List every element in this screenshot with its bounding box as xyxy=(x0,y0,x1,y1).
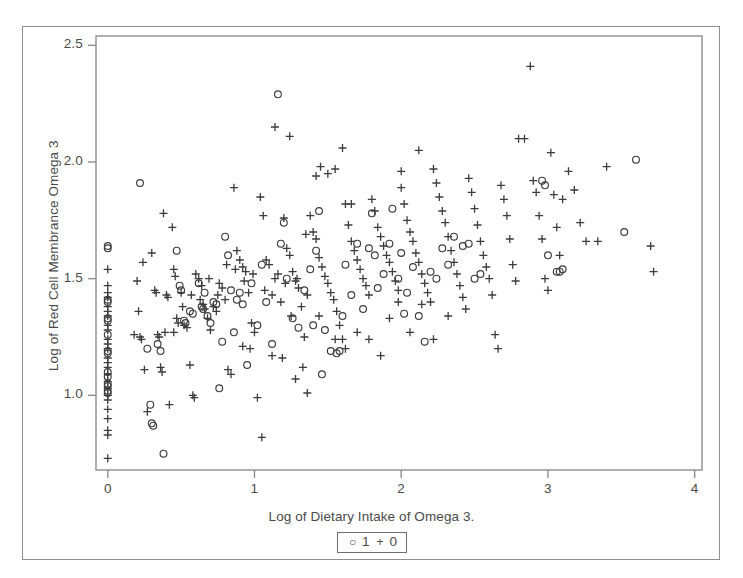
data-point-circle xyxy=(313,247,320,254)
y-tick-label: 1.0 xyxy=(0,386,83,401)
data-point-plus xyxy=(359,275,367,283)
data-point-plus xyxy=(143,408,151,416)
data-point-circle xyxy=(545,252,552,259)
data-point-plus xyxy=(400,200,408,208)
data-point-plus xyxy=(249,270,257,278)
data-point-circle xyxy=(633,156,640,163)
data-point-plus xyxy=(347,200,355,208)
data-point-plus xyxy=(406,328,414,336)
data-point-plus xyxy=(104,282,112,290)
data-point-plus xyxy=(532,188,540,196)
data-point-plus xyxy=(278,354,286,362)
x-tick-label: 3 xyxy=(528,481,568,496)
data-point-plus xyxy=(394,298,402,306)
data-point-plus xyxy=(391,277,399,285)
legend-label: 0 xyxy=(390,534,398,550)
data-point-plus xyxy=(233,247,241,255)
data-point-plus xyxy=(403,216,411,224)
data-point-plus xyxy=(553,223,561,231)
data-point-plus xyxy=(230,184,238,192)
data-point-plus xyxy=(362,282,370,290)
figure-canvas: 2.5 2.0 1.5 1.0 0 1 2 3 4 Log of Red Cel… xyxy=(0,0,743,578)
data-point-plus xyxy=(509,261,517,269)
data-point-circle xyxy=(233,296,240,303)
data-point-plus xyxy=(394,286,402,294)
data-point-plus xyxy=(429,335,437,343)
data-point-plus xyxy=(327,289,335,297)
data-point-plus xyxy=(468,188,476,196)
data-point-plus xyxy=(479,251,487,259)
data-point-circle xyxy=(415,313,422,320)
data-point-circle xyxy=(216,385,223,392)
data-point-plus xyxy=(412,249,420,257)
data-point-plus xyxy=(139,258,147,266)
data-point-circle xyxy=(477,271,484,278)
data-point-plus xyxy=(297,303,305,311)
y-axis-title: Log of Red Cell Membrance Omega 3 xyxy=(46,140,61,371)
data-point-circle xyxy=(398,250,405,257)
data-point-plus xyxy=(303,389,311,397)
data-point-plus xyxy=(312,172,320,180)
data-point-plus xyxy=(256,193,264,201)
data-point-circle xyxy=(374,285,381,292)
data-point-circle xyxy=(471,275,478,282)
data-point-circle xyxy=(380,271,387,278)
data-point-plus xyxy=(368,195,376,203)
data-point-circle xyxy=(389,205,396,212)
data-point-plus xyxy=(512,277,520,285)
plus-marker-icon: + xyxy=(375,536,386,548)
data-point-plus xyxy=(223,261,231,269)
data-point-plus xyxy=(287,312,295,320)
data-point-plus xyxy=(444,233,452,241)
data-point-plus xyxy=(187,291,195,299)
legend-label: 1 xyxy=(362,534,370,550)
data-point-plus xyxy=(385,314,393,322)
data-point-plus xyxy=(559,195,567,203)
data-point-circle xyxy=(144,345,151,352)
data-point-plus xyxy=(418,300,426,308)
data-point-circle xyxy=(339,313,346,320)
data-point-plus xyxy=(160,209,168,217)
data-point-plus xyxy=(356,265,364,273)
legend-entry-0: + 0 xyxy=(375,534,398,550)
data-points-layer xyxy=(104,62,658,462)
data-point-plus xyxy=(418,270,426,278)
data-point-plus xyxy=(603,163,611,171)
data-point-plus xyxy=(165,401,173,409)
data-point-plus xyxy=(529,177,537,185)
data-point-plus xyxy=(173,314,181,322)
data-point-plus xyxy=(318,263,326,271)
data-point-plus xyxy=(281,279,289,287)
data-point-plus xyxy=(236,256,244,264)
legend-entry-1: ○ 1 xyxy=(347,534,370,550)
data-point-plus xyxy=(421,279,429,287)
data-point-plus xyxy=(494,345,502,353)
data-point-circle xyxy=(410,264,417,271)
data-point-plus xyxy=(482,263,490,271)
data-point-plus xyxy=(506,235,514,243)
data-point-plus xyxy=(104,396,112,404)
data-point-plus xyxy=(503,212,511,220)
data-point-plus xyxy=(186,361,194,369)
data-point-plus xyxy=(444,312,452,320)
data-point-plus xyxy=(231,265,239,273)
data-point-circle xyxy=(269,341,276,348)
data-point-plus xyxy=(459,293,467,301)
data-point-plus xyxy=(261,286,269,294)
data-point-plus xyxy=(206,326,214,334)
data-point-plus xyxy=(538,235,546,243)
data-point-circle xyxy=(360,306,367,313)
data-point-circle xyxy=(433,275,440,282)
data-point-circle xyxy=(316,208,323,215)
data-point-plus xyxy=(221,296,229,304)
x-tick-label: 4 xyxy=(675,481,715,496)
data-point-plus xyxy=(135,307,143,315)
data-point-plus xyxy=(299,363,307,371)
data-point-circle xyxy=(239,301,246,308)
data-point-plus xyxy=(365,291,373,299)
data-point-plus xyxy=(170,265,178,273)
data-point-plus xyxy=(292,375,300,383)
data-point-circle xyxy=(244,362,251,369)
y-tick-label: 1.5 xyxy=(0,270,83,285)
data-point-plus xyxy=(246,345,254,353)
